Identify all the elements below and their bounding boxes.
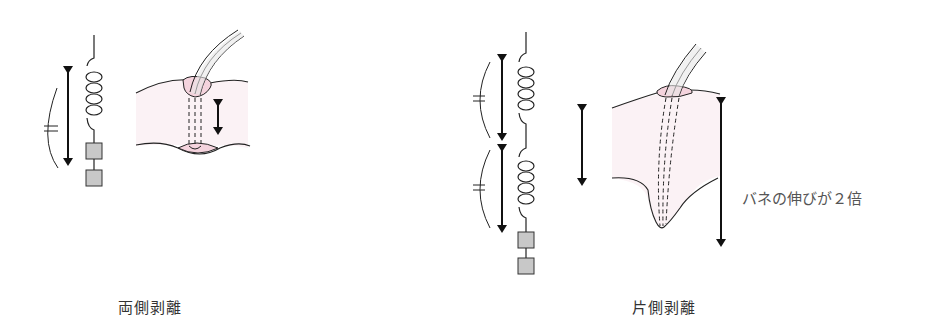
spring-stretch-annotation: バネの伸びが２倍 bbox=[742, 187, 862, 208]
right-caption: 片側剥離 bbox=[632, 296, 696, 317]
right-spring-model bbox=[473, 32, 534, 274]
diagram-canvas bbox=[0, 0, 939, 331]
right-tissue bbox=[612, 44, 721, 243]
left-spring-model bbox=[44, 35, 102, 186]
left-caption: 両側剥離 bbox=[118, 296, 182, 317]
left-tissue bbox=[136, 30, 250, 154]
